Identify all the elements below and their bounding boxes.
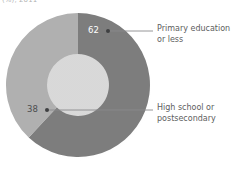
- slice-value-label-primary-education: 62: [88, 26, 99, 35]
- donut-chart: (%), 2011 62 38 Primary education or les…: [0, 0, 235, 169]
- callout-highschool-line2: postsecondary: [157, 114, 216, 125]
- slice-value-label-high-school: 38: [27, 105, 38, 114]
- callout-label-primary-education: Primary education or less: [157, 24, 230, 45]
- callout-primary-line2: or less: [157, 35, 230, 46]
- leader-dot-primary-education: [106, 29, 110, 33]
- callout-highschool-line1: High school or: [157, 103, 216, 114]
- leader-dot-high-school: [45, 108, 49, 112]
- callout-label-high-school: High school or postsecondary: [157, 103, 216, 124]
- callout-primary-line1: Primary education: [157, 24, 230, 35]
